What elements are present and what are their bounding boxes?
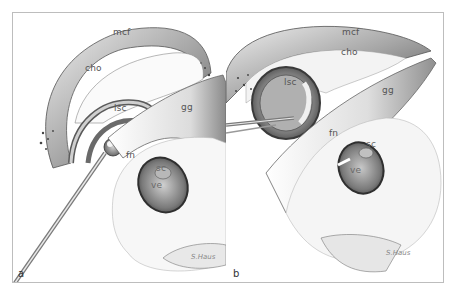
- panel-b-illustration: [226, 13, 445, 282]
- label-sc-a: sc: [156, 163, 166, 173]
- label-mcf-a: mcf: [113, 27, 130, 37]
- label-lsc-a: lsc: [114, 103, 127, 113]
- label-fn-b: fn: [329, 128, 338, 138]
- panel-a-illustration: [13, 13, 226, 282]
- signature-b: S.Haus: [386, 249, 410, 257]
- label-mcf-b: mcf: [342, 27, 359, 37]
- label-gg-a: gg: [181, 102, 193, 112]
- label-ve-b: ve: [350, 165, 361, 175]
- label-cho-b: cho: [341, 47, 358, 57]
- panel-letter-a: a: [18, 268, 24, 279]
- label-cho-a: cho: [85, 63, 102, 73]
- label-sc-b: sc: [366, 139, 376, 149]
- label-fn-a: fn: [126, 150, 135, 160]
- label-ve-a: ve: [151, 180, 162, 190]
- figure-frame: mcf cho lsc gg fn sc ve S.Haus a: [12, 12, 444, 283]
- label-lsc-b: lsc: [284, 77, 297, 87]
- panel-b: mcf cho lsc gg fn sc ve S.Haus b: [226, 13, 445, 282]
- panel-letter-b: b: [233, 268, 239, 279]
- panel-a: mcf cho lsc gg fn sc ve S.Haus a: [13, 13, 226, 282]
- signature-a: S.Haus: [191, 253, 215, 261]
- label-gg-b: gg: [382, 85, 394, 95]
